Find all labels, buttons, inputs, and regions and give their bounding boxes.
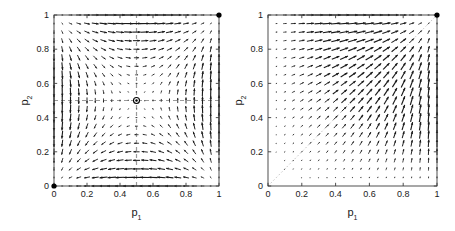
x-tick-label: 0 — [265, 189, 270, 199]
field-arrow-head — [301, 177, 302, 178]
field-arrow-head — [193, 105, 195, 108]
field-arrow-head — [394, 140, 396, 142]
field-arrow-head — [61, 76, 63, 79]
field-arrow-head — [86, 101, 88, 103]
x-tick-label: 1 — [216, 189, 221, 199]
x-tick-label: 0.4 — [329, 189, 342, 199]
field-arrow-head — [96, 31, 99, 33]
equilibrium-marker-stable — [51, 183, 56, 188]
x-tick-label: 0.2 — [296, 189, 309, 199]
field-arrow-head — [155, 22, 158, 24]
field-arrow-head — [177, 115, 179, 117]
field-arrow-head — [303, 22, 305, 24]
field-arrow-head — [394, 131, 396, 134]
field-arrow-head — [386, 177, 387, 178]
field-arrow-head — [141, 168, 144, 170]
y-axis-title-group: p2 — [18, 95, 33, 105]
field-arrow-head — [69, 93, 71, 96]
field-arrow-head — [108, 176, 111, 178]
field-arrow-head — [170, 39, 173, 41]
field-arrow-head — [112, 49, 114, 51]
field-arrow-head — [61, 85, 63, 88]
field-arrow-head — [210, 71, 212, 74]
field-arrow-head — [133, 151, 135, 153]
field-arrow-head — [144, 109, 145, 110]
right-panel-canvas: 00.20.40.60.8100.20.40.60.81p1p2 — [228, 0, 455, 231]
x-axis-title-subscript: 1 — [354, 214, 358, 221]
field-arrow-head — [335, 177, 336, 178]
field-arrow-head — [343, 177, 344, 178]
field-arrow-head — [411, 96, 413, 99]
field-arrow-head — [78, 110, 80, 113]
field-arrow-head — [61, 119, 63, 122]
field-arrow-head — [352, 177, 353, 178]
equilibrium-marker-stable — [434, 12, 439, 17]
field-arrow-head — [61, 102, 63, 105]
field-arrow-head — [201, 140, 203, 143]
field-arrow-head — [387, 30, 390, 32]
y-tick-label: 0.2 — [36, 147, 49, 157]
field-arrow-head — [128, 108, 129, 109]
field-arrow-head — [135, 126, 136, 127]
left-panel-canvas: 00.20.40.60.8100.20.40.60.81p1p2 — [0, 0, 227, 231]
field-arrow-head — [403, 105, 405, 108]
field-arrow-head — [162, 48, 164, 50]
field-arrow-head — [146, 31, 149, 33]
field-arrow-head — [276, 66, 277, 67]
field-arrow-head — [275, 134, 276, 135]
field-arrow-head — [177, 81, 179, 83]
y-tick-label: 0.6 — [36, 79, 49, 89]
field-arrow-head — [412, 22, 414, 24]
y-tick-label: 0 — [44, 181, 49, 191]
field-arrow-head — [275, 152, 276, 153]
x-tick-label: 0.6 — [363, 189, 376, 199]
figure-root: 00.20.40.60.8100.20.40.60.81p1p2 00.20.4… — [0, 0, 455, 231]
field-arrow-head — [135, 117, 136, 118]
field-arrow-head — [124, 176, 127, 178]
field-arrow-head — [276, 109, 277, 110]
field-arrow-head — [193, 132, 195, 135]
field-arrow-head — [94, 118, 96, 120]
field-arrow-head — [178, 31, 181, 33]
field-arrow-head — [276, 23, 277, 24]
y-tick-label: 0.8 — [36, 44, 49, 54]
field-arrow-head — [394, 123, 396, 126]
field-arrow-head — [402, 122, 404, 125]
y-tick-label: 0.4 — [250, 113, 263, 123]
field-arrow-head — [94, 101, 96, 103]
field-arrow-head — [61, 128, 63, 131]
field-arrow-head — [309, 177, 310, 178]
phase-portrait-right: 00.20.40.60.8100.20.40.60.81p1p2 — [228, 0, 455, 231]
field-arrow-head — [116, 176, 119, 178]
field-arrow-head — [276, 117, 277, 118]
field-arrow-head — [134, 142, 136, 144]
y-axis-title: p2 — [232, 95, 247, 105]
field-arrow-head — [377, 177, 378, 178]
field-arrow-head — [113, 22, 116, 24]
field-arrow-head — [86, 127, 88, 129]
field-arrow-head — [328, 48, 331, 50]
field-arrow-head — [69, 102, 71, 105]
field-arrow-head — [210, 79, 212, 82]
x-tick-label: 0.6 — [147, 189, 160, 199]
field-arrow-head — [411, 79, 413, 82]
field-arrow-head — [109, 151, 111, 153]
field-arrow-head — [185, 72, 187, 74]
y-tick-label: 0.8 — [250, 44, 263, 54]
field-arrow-head — [428, 177, 429, 178]
field-arrow-head — [137, 66, 138, 67]
field-arrow-head — [428, 149, 430, 151]
field-arrow-head — [276, 75, 277, 76]
field-arrow-head — [294, 23, 296, 25]
field-arrow-head — [140, 176, 143, 178]
field-arrow-head — [276, 126, 277, 127]
field-arrow-head — [194, 63, 196, 66]
field-arrow-head — [301, 169, 302, 170]
field-arrow-head — [201, 88, 203, 91]
field-arrow-head — [354, 39, 357, 41]
y-axis-title-subscript: 2 — [240, 95, 247, 99]
y-tick-label: 0 — [258, 181, 263, 191]
field-arrow-head — [132, 168, 135, 170]
y-axis-title-group: p2 — [232, 95, 247, 105]
x-tick-label: 0.8 — [180, 189, 193, 199]
